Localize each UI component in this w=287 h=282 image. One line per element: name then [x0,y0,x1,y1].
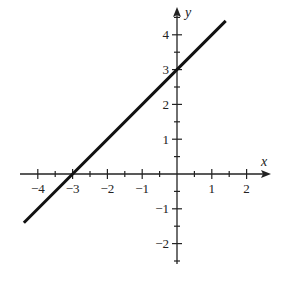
x-tick-label: −4 [31,181,45,196]
x-tick-label: 1 [209,181,216,196]
line-chart: x y −4−3−2−112 −2−11234 [0,0,287,282]
x-tick-label: 2 [243,181,250,196]
x-tick-label: −1 [135,181,149,196]
y-tick-label: 1 [163,132,170,147]
x-axis-label: x [260,154,268,169]
y-tick-label: 3 [163,62,170,77]
y-tick-label: −1 [155,201,169,216]
y-tick-label: −2 [155,236,169,251]
y-tick-label: 4 [163,27,170,42]
minor-ticks [55,17,229,261]
y-tick-label: 2 [163,97,170,112]
y-tick-labels: −2−11234 [155,27,169,251]
major-ticks [38,35,247,244]
x-tick-label: −2 [100,181,114,196]
y-axis-label: y [183,5,192,20]
data-line [24,21,226,223]
x-tick-label: −3 [66,181,80,196]
